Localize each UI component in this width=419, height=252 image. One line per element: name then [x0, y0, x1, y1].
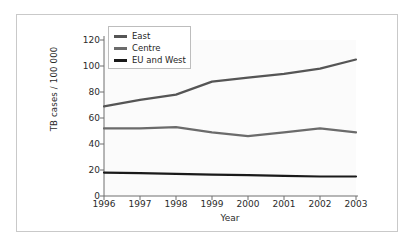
legend-label: East: [132, 31, 150, 42]
x-tick-label: 1999: [192, 199, 232, 209]
x-tick-label: 1996: [84, 199, 124, 209]
chart-legend: EastCentreEU and West: [108, 26, 191, 69]
x-axis-title: Year: [104, 213, 356, 223]
legend-label: Centre: [132, 43, 160, 54]
x-tick-label: 2000: [228, 199, 268, 209]
x-tick-label: 1998: [156, 199, 196, 209]
legend-item-eu-and-west: EU and West: [114, 54, 186, 66]
legend-swatch-icon: [114, 47, 127, 50]
figure-container: 020406080100120 199619971998199920002001…: [0, 0, 419, 252]
legend-label: EU and West: [132, 55, 186, 66]
legend-item-centre: Centre: [114, 42, 186, 54]
x-tick-label: 2002: [300, 199, 340, 209]
x-tick-label: 1997: [120, 199, 160, 209]
legend-swatch-icon: [114, 35, 127, 38]
legend-swatch-icon: [114, 59, 127, 62]
legend-item-east: East: [114, 30, 186, 42]
y-axis-title: TB cases / 100 000: [49, 29, 59, 149]
x-tick-label: 2003: [336, 199, 376, 209]
x-tick-label: 2001: [264, 199, 304, 209]
